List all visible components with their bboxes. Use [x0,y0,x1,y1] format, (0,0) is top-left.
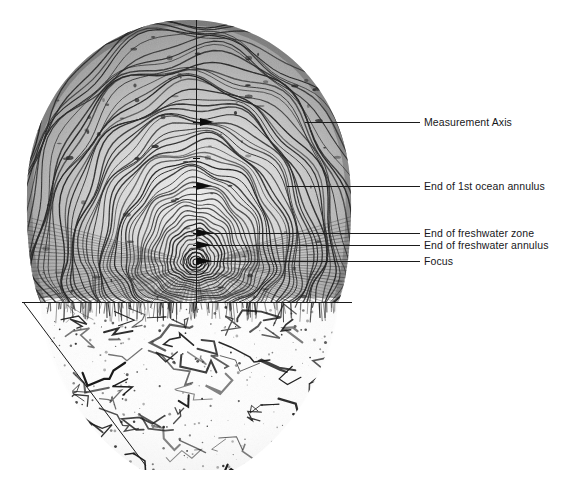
axis-tick-1 [193,122,200,123]
axis-tick-3 [193,186,200,187]
leader-line-end-of-1st-ocean-annulus [287,186,420,187]
axis-tick-2 [193,158,200,159]
axis-tick-5 [193,245,200,246]
label-end-of-1st-ocean-annulus: End of 1st ocean annulus [424,180,545,192]
scale-radius-diagonal-line [10,295,160,475]
label-focus: Focus [424,255,453,267]
leader-line-end-of-freshwater-annulus [207,245,420,246]
axis-tick-4 [193,233,200,234]
leader-line-end-of-freshwater-zone [205,233,420,234]
leader-line-measurement-axis [305,122,420,123]
label-end-of-freshwater-zone: End of freshwater zone [424,227,534,239]
figure-canvas: Measurement Axis End of 1st ocean annulu… [0,0,564,489]
label-end-of-freshwater-annulus: End of freshwater annulus [424,239,549,251]
label-measurement-axis: Measurement Axis [424,116,512,128]
leader-line-focus [200,261,420,262]
measurement-axis-line [196,20,197,305]
